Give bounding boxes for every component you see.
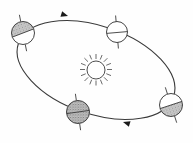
sun-disc xyxy=(87,61,105,79)
sun xyxy=(80,54,112,86)
orbit-diagram-svg xyxy=(0,0,193,143)
seasons-diagram-canvas: Earth's Orbit Around the Sun xyxy=(0,0,193,143)
